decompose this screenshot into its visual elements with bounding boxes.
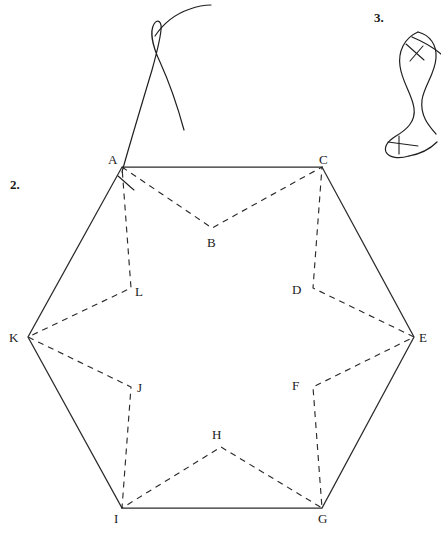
sketch-curve-2-arc-stroke	[155, 5, 211, 36]
sketch-curve-3-upper-tick-b	[410, 46, 423, 61]
sketch-curve-3-right-stroke	[418, 32, 436, 134]
vertex-label-B: B	[207, 236, 216, 249]
vertex-label-C: C	[319, 153, 328, 166]
vertex-label-D: D	[292, 283, 301, 296]
sketch-curve-2-group	[118, 5, 211, 190]
outer-hexagon-shape	[28, 167, 414, 508]
vertex-label-G: G	[318, 512, 327, 525]
problem-number-3: 3.	[374, 11, 384, 24]
figure-root: 2. 3. A C E G I K B D F H J L	[0, 0, 441, 536]
sketch-curve-3-upper-tick-a	[406, 44, 424, 60]
vertex-label-H: H	[212, 428, 221, 441]
problem-number-2: 2.	[10, 178, 20, 191]
vertex-label-F: F	[292, 379, 299, 392]
sketch-curve-2-left-stroke	[122, 21, 184, 172]
vertex-label-L: L	[135, 285, 143, 298]
sketch-curve-3-lower-tick-a	[388, 142, 418, 146]
vertex-label-A: A	[108, 153, 117, 166]
vertex-label-J: J	[137, 381, 142, 394]
vertex-label-I: I	[114, 512, 118, 525]
vertex-label-E: E	[419, 331, 427, 344]
sketch-curve-3-top-arc	[412, 37, 441, 54]
sketch-curve-3-group	[385, 32, 441, 158]
diagram-canvas	[0, 0, 441, 536]
sketch-curve-2-tick	[118, 176, 134, 190]
vertex-label-K: K	[9, 331, 18, 344]
inner-star-shape	[28, 167, 414, 508]
sketch-curve-3-bottom-arc	[409, 142, 437, 156]
